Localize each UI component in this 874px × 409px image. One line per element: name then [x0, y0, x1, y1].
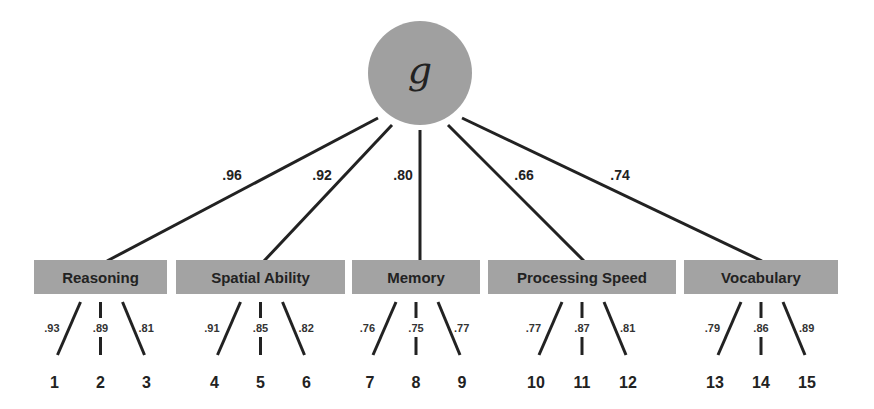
item-number: 12 — [619, 374, 637, 391]
factor-box-vocabulary: Vocabulary — [684, 260, 838, 294]
item-loading-label: .77 — [454, 322, 469, 334]
item-14: .8614 — [752, 302, 770, 391]
factor-loading-label: .96 — [222, 167, 242, 183]
item-path — [373, 302, 396, 355]
factor-box-reasoning: Reasoning — [34, 260, 167, 294]
factor-box-processing-speed: Processing Speed — [488, 260, 676, 294]
factor-box-spatial-ability: Spatial Ability — [176, 260, 345, 294]
item-number: 14 — [752, 374, 770, 391]
item-number: 11 — [574, 374, 591, 391]
item-number: 5 — [256, 374, 265, 391]
g-label: g — [408, 48, 432, 92]
path-g-to-vocabulary — [462, 118, 762, 261]
item-number: 9 — [458, 374, 467, 391]
item-loading-label: .79 — [705, 322, 720, 334]
item-2: .892 — [93, 302, 108, 391]
item-number: 15 — [798, 374, 816, 391]
item-loading-label: .82 — [299, 322, 314, 334]
factor-label: Memory — [387, 269, 445, 286]
factor-loading-label: .74 — [610, 167, 630, 183]
factor-loading-label: .80 — [393, 167, 413, 183]
item-loading-label: .75 — [408, 322, 423, 334]
item-11: .8711 — [574, 302, 591, 391]
item-number: 13 — [706, 374, 724, 391]
item-path — [58, 302, 81, 355]
item-1: .931 — [44, 302, 80, 391]
item-loading-label: .76 — [360, 322, 375, 334]
factor-label: Processing Speed — [517, 269, 647, 286]
item-number: 3 — [142, 374, 151, 391]
factor-loading-label: .66 — [514, 167, 534, 183]
factor-loading-label: .92 — [312, 167, 332, 183]
factor-boxes: ReasoningSpatial AbilityMemoryProcessing… — [34, 260, 838, 294]
g-factor-model-diagram: .96.92.80.66.74 ReasoningSpatial Ability… — [0, 0, 874, 409]
item-number: 1 — [50, 374, 59, 391]
item-13: .7913 — [705, 302, 741, 391]
item-number: 8 — [412, 374, 421, 391]
item-10: .7710 — [526, 302, 562, 391]
item-number: 7 — [366, 374, 375, 391]
factor-label: Spatial Ability — [211, 269, 310, 286]
item-number: 2 — [96, 374, 105, 391]
item-6: .826 — [283, 302, 314, 391]
factor-to-item-paths: .931.892.813.914.855.826.767.758.779.771… — [44, 302, 816, 391]
item-loading-label: .91 — [204, 322, 219, 334]
item-loading-label: .86 — [753, 322, 768, 334]
item-5: .855 — [253, 302, 268, 391]
item-number: 10 — [527, 374, 545, 391]
item-path — [218, 302, 241, 355]
item-loading-label: .87 — [574, 322, 589, 334]
item-4: .914 — [204, 302, 240, 391]
item-loading-label: .93 — [44, 322, 59, 334]
item-7: .767 — [360, 302, 396, 391]
factor-box-memory: Memory — [352, 260, 480, 294]
item-loading-label: .89 — [799, 322, 814, 334]
g-to-factor-paths: .96.92.80.66.74 — [107, 118, 762, 261]
item-3: .813 — [123, 302, 154, 391]
factor-label: Vocabulary — [721, 269, 801, 286]
item-9: .779 — [438, 302, 469, 391]
item-loading-label: .81 — [139, 322, 154, 334]
item-number: 6 — [302, 374, 311, 391]
path-g-to-reasoning — [107, 118, 378, 261]
item-loading-label: .77 — [526, 322, 541, 334]
item-loading-label: .85 — [253, 322, 268, 334]
item-loading-label: .89 — [93, 322, 108, 334]
item-path — [718, 302, 741, 355]
item-loading-label: .81 — [620, 322, 635, 334]
general-factor-node: g — [368, 21, 472, 125]
item-15: .8915 — [783, 302, 816, 391]
item-path — [539, 302, 562, 355]
item-number: 4 — [210, 374, 219, 391]
item-12: .8112 — [604, 302, 637, 391]
item-8: .758 — [408, 302, 423, 391]
factor-label: Reasoning — [62, 269, 139, 286]
